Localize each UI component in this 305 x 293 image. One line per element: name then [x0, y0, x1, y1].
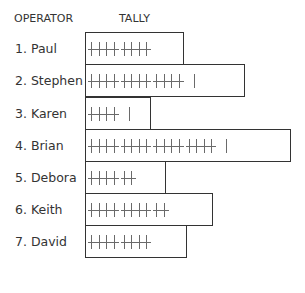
- tally-group-icon: [91, 202, 116, 218]
- tally-group-icon: [156, 73, 181, 89]
- operator-header: OPERATOR: [14, 12, 73, 25]
- tally-marks: [91, 234, 156, 250]
- tally-box: [85, 129, 291, 162]
- operator-label: 6. Keith: [15, 202, 62, 218]
- tally-group-icon: [91, 41, 116, 57]
- tally-group-icon: [91, 106, 116, 122]
- tally-group-icon: [189, 138, 214, 154]
- tally-group-icon: [124, 138, 149, 154]
- tally-marks: [91, 202, 174, 218]
- tally-group-icon: [91, 138, 116, 154]
- tally-group-icon: [124, 73, 149, 89]
- tally-group-icon: [156, 202, 166, 218]
- operator-label: 3. Karen: [15, 106, 67, 122]
- tally-box: [85, 225, 187, 258]
- tally-marks: [91, 41, 156, 57]
- tally-group-icon: [124, 234, 149, 250]
- tally-marks: [91, 106, 133, 122]
- tally-group-icon: [91, 170, 116, 186]
- tally-group-icon: [124, 202, 149, 218]
- tally-box: [85, 32, 184, 65]
- operator-label: 2. Stephen: [15, 73, 83, 89]
- tally-group-icon: [156, 138, 181, 154]
- tally-marks: [91, 170, 141, 186]
- tally-box: [85, 193, 213, 226]
- tally-marks: [91, 138, 230, 154]
- tally-group-icon: [91, 234, 116, 250]
- tally-single-mark-icon: [127, 106, 133, 122]
- tally-single-mark-icon: [192, 73, 198, 89]
- operator-label: 4. Brian: [15, 138, 64, 154]
- tally-group-icon: [91, 73, 116, 89]
- tally-group-icon: [124, 41, 149, 57]
- tally-single-mark-icon: [224, 138, 230, 154]
- tally-group-icon: [124, 170, 134, 186]
- operator-label: 1. Paul: [15, 41, 57, 57]
- operator-label: 5. Debora: [15, 170, 77, 186]
- tally-box: [85, 161, 166, 194]
- tally-header: TALLY: [119, 12, 150, 25]
- operator-label: 7. David: [15, 234, 67, 250]
- tally-box: [85, 64, 245, 97]
- tally-marks: [91, 73, 198, 89]
- tally-box: [85, 97, 151, 130]
